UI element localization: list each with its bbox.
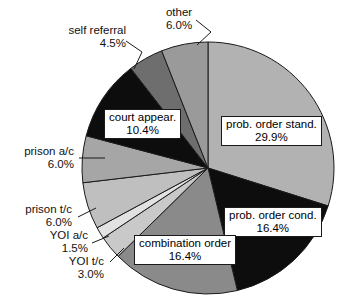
pie-label-court-appear-text: court appear. <box>109 111 176 124</box>
pie-label-prison-ac: prison a/c 6.0% <box>2 145 74 170</box>
pie-label-yoi-tc-text: YOI t/c <box>36 255 104 268</box>
pie-label-prob-order-cond-value: 16.4% <box>229 222 317 235</box>
pie-label-combination-order-value: 16.4% <box>139 250 231 263</box>
pie-label-court-appear-value: 10.4% <box>109 124 176 137</box>
pie-label-prob-order-cond-text: prob. order cond. <box>229 209 317 222</box>
pie-label-box-combination-order: combination order 16.4% <box>134 235 236 265</box>
pie-label-prison-ac-text: prison a/c <box>2 145 74 158</box>
pie-label-prison-tc-text: prison t/c <box>2 203 72 216</box>
pie-label-combination-order-text: combination order <box>139 237 231 250</box>
pie-label-prob-order-stand-value: 29.9% <box>226 131 317 144</box>
pie-label-self-referral-value: 4.5% <box>22 37 126 50</box>
pie-label-yoi-ac: YOI a/c 1.5% <box>18 229 88 254</box>
pie-chart-figure: other 6.0% self referral 4.5% prison a/c… <box>0 0 344 306</box>
pie-label-other: other 6.0% <box>152 6 206 31</box>
pie-label-prison-tc-value: 6.0% <box>2 216 72 229</box>
pie-label-other-value: 6.0% <box>152 19 206 32</box>
pie-label-box-prob-order-cond: prob. order cond. 16.4% <box>224 207 322 237</box>
pie-label-prob-order-stand-text: prob. order stand. <box>226 118 317 131</box>
pie-label-prison-tc: prison t/c 6.0% <box>2 203 72 228</box>
pie-label-yoi-tc: YOI t/c 3.0% <box>36 255 104 280</box>
pie-label-yoi-tc-value: 3.0% <box>36 268 104 281</box>
pie-label-yoi-ac-text: YOI a/c <box>18 229 88 242</box>
pie-label-self-referral: self referral 4.5% <box>22 24 126 49</box>
pie-label-box-court-appear: court appear. 10.4% <box>104 109 181 139</box>
pie-label-box-prob-order-stand: prob. order stand. 29.9% <box>221 116 322 146</box>
pie-label-prison-ac-value: 6.0% <box>2 158 74 171</box>
pie-label-other-text: other <box>152 6 206 19</box>
pie-label-yoi-ac-value: 1.5% <box>18 242 88 255</box>
pie-label-self-referral-text: self referral <box>22 24 126 37</box>
